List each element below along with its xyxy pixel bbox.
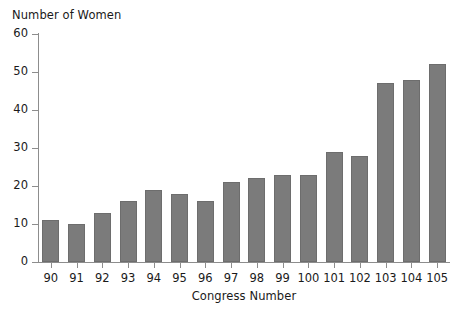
- bar-102: [351, 156, 368, 262]
- y-tick-mark: [32, 262, 38, 263]
- x-tick-mark-102: [360, 263, 361, 268]
- y-axis-title: Number of Women: [12, 8, 121, 22]
- bar-chart-figure: Number of Women 0102030405060 9091929394…: [0, 0, 460, 320]
- y-tick-label: 60: [13, 26, 28, 40]
- y-tick-label: 0: [21, 254, 28, 268]
- bar-95: [171, 194, 188, 262]
- bar-103: [377, 83, 394, 262]
- x-tick-label-100: 100: [296, 271, 322, 285]
- x-tick-mark-101: [334, 263, 335, 268]
- x-tick-label-99: 99: [270, 271, 296, 285]
- x-tick-mark-99: [283, 263, 284, 268]
- x-tick-label-96: 96: [193, 271, 219, 285]
- x-tick-label-101: 101: [321, 271, 347, 285]
- x-tick-mark-105: [437, 263, 438, 268]
- x-tick-label-93: 93: [115, 271, 141, 285]
- bar-98: [248, 178, 265, 262]
- x-tick-label-103: 103: [373, 271, 399, 285]
- x-tick-label-90: 90: [38, 271, 64, 285]
- x-tick-label-97: 97: [218, 271, 244, 285]
- x-tick-label-98: 98: [244, 271, 270, 285]
- x-tick-mark-90: [51, 263, 52, 268]
- x-axis-title: Congress Number: [38, 289, 450, 303]
- x-tick-mark-97: [231, 263, 232, 268]
- bar-93: [120, 201, 137, 262]
- y-tick-0: 0: [32, 262, 38, 263]
- x-axis-line: [38, 262, 450, 263]
- bar-91: [68, 224, 85, 262]
- x-tick-mark-93: [128, 263, 129, 268]
- bar-94: [145, 190, 162, 262]
- x-tick-mark-104: [411, 263, 412, 268]
- x-tick-mark-92: [102, 263, 103, 268]
- x-tick-mark-98: [257, 263, 258, 268]
- bar-90: [42, 220, 59, 262]
- y-tick-label: 40: [13, 102, 28, 116]
- x-tick-mark-91: [77, 263, 78, 268]
- bar-97: [223, 182, 240, 262]
- bar-92: [94, 213, 111, 262]
- y-tick-label: 30: [13, 140, 28, 154]
- bar-105: [429, 64, 446, 262]
- x-tick-label-105: 105: [424, 271, 450, 285]
- x-tick-label-102: 102: [347, 271, 373, 285]
- bar-96: [197, 201, 214, 262]
- x-tick-label-91: 91: [64, 271, 90, 285]
- x-tick-mark-103: [386, 263, 387, 268]
- bar-101: [326, 152, 343, 262]
- x-tick-label-94: 94: [141, 271, 167, 285]
- y-tick-label: 50: [13, 64, 28, 78]
- x-tick-mark-94: [154, 263, 155, 268]
- y-tick-label: 20: [13, 178, 28, 192]
- x-tick-mark-96: [205, 263, 206, 268]
- x-tick-label-95: 95: [167, 271, 193, 285]
- x-tick-mark-95: [180, 263, 181, 268]
- x-tick-label-104: 104: [399, 271, 425, 285]
- x-tick-label-92: 92: [90, 271, 116, 285]
- bar-99: [274, 175, 291, 262]
- plot-area: [38, 34, 450, 262]
- x-tick-mark-100: [308, 263, 309, 268]
- y-tick-label: 10: [13, 216, 28, 230]
- bar-104: [403, 80, 420, 262]
- bar-100: [300, 175, 317, 262]
